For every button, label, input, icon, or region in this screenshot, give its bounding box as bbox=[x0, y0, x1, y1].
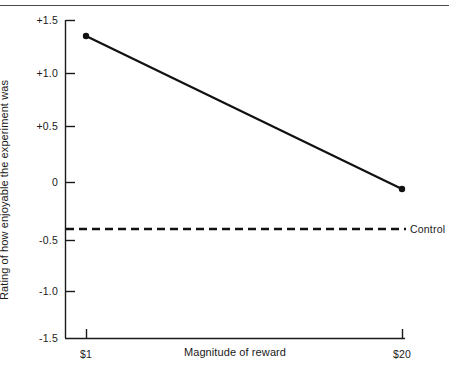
y-tick-label-plus-0-5: +0.5 bbox=[18, 120, 58, 132]
data-point-dollar20 bbox=[399, 186, 405, 192]
x-tick-label-dollar-20: $20 bbox=[393, 348, 411, 360]
y-tick-label-plus-1-0: +1.0 bbox=[18, 67, 58, 79]
control-line-label: Control bbox=[410, 223, 445, 235]
y-tick-label-minus-1-5: -1.5 bbox=[18, 332, 58, 344]
data-point-dollar1 bbox=[83, 33, 89, 39]
figure-container: +1.5 +1.0 +0.5 0 -0.5 -1.0 -1.5 $1 $20 R… bbox=[0, 0, 449, 370]
experimental-series-line bbox=[86, 36, 402, 189]
y-axis-title: Rating of how enjoyable the experiment w… bbox=[0, 80, 10, 300]
y-tick-label-plus-1-5: +1.5 bbox=[18, 14, 58, 26]
x-tick-label-dollar-1: $1 bbox=[80, 348, 92, 360]
y-tick-label-zero: 0 bbox=[18, 176, 58, 188]
plot-canvas bbox=[0, 0, 449, 370]
y-tick-label-minus-0-5: -0.5 bbox=[18, 234, 58, 246]
x-axis-title: Magnitude of reward bbox=[184, 346, 286, 358]
y-tick-label-minus-1-0: -1.0 bbox=[18, 285, 58, 297]
